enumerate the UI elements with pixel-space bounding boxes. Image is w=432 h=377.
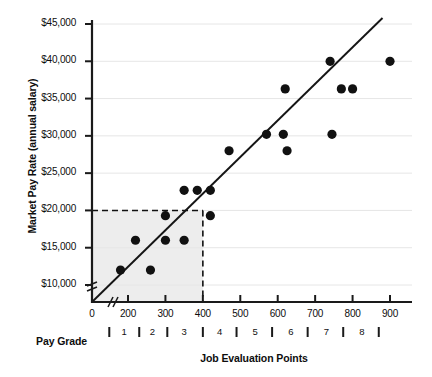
pay-grade-label: 7 [316, 326, 336, 337]
y-axis-tick-label: $15,000 [14, 241, 76, 252]
pay-grade-label: 5 [245, 326, 265, 337]
pay-policy-shaded-region [92, 210, 203, 302]
data-point [326, 57, 335, 66]
data-point [262, 130, 271, 139]
data-point [282, 146, 291, 155]
x-axis-tick-label: 900 [370, 308, 410, 319]
pay-grade-axis-title: Pay Grade [36, 335, 87, 347]
x-axis-tick-label: 700 [295, 308, 335, 319]
x-axis-tick-label: 500 [220, 308, 260, 319]
x-axis-title: Job Evaluation Points [144, 352, 364, 364]
x-axis-tick-label: 300 [145, 308, 185, 319]
data-point [161, 211, 170, 220]
data-point [279, 130, 288, 139]
y-axis-tick-label: $45,000 [14, 17, 76, 28]
y-axis-tick-label: $10,000 [14, 278, 76, 289]
data-point [385, 57, 394, 66]
y-axis-tick-label: $25,000 [14, 166, 76, 177]
pay-grade-label: 3 [174, 326, 194, 337]
x-axis-tick-label: 400 [183, 308, 223, 319]
x-axis-tick-label: 800 [333, 308, 373, 319]
data-point [337, 84, 346, 93]
x-axis-tick-label: 0 [72, 308, 112, 319]
data-point [116, 265, 125, 274]
y-axis-tick-label: $40,000 [14, 54, 76, 65]
pay-grade-label: 6 [281, 326, 301, 337]
y-axis-tick-label: $35,000 [14, 92, 76, 103]
chart-figure: Market Pay Rate (annual salary) $10,000$… [0, 0, 432, 377]
x-axis-tick-label: 200 [108, 308, 148, 319]
pay-grade-label: 8 [352, 326, 372, 337]
data-point [193, 186, 202, 195]
data-point [206, 211, 215, 220]
data-point [224, 146, 233, 155]
y-axis-tick-label: $20,000 [14, 203, 76, 214]
scatter-plot-area: Market Pay Rate (annual salary) $10,000$… [0, 0, 432, 377]
data-point [131, 236, 140, 245]
data-point [327, 130, 336, 139]
data-point [348, 84, 357, 93]
y-axis-title: Market Pay Rate (annual salary) [26, 46, 38, 266]
data-point [281, 84, 290, 93]
pay-grade-label: 1 [114, 326, 134, 337]
data-point [146, 265, 155, 274]
market-pay-trend-line [92, 18, 383, 302]
data-point [180, 186, 189, 195]
pay-grade-label: 2 [142, 326, 162, 337]
pay-grade-label: 4 [210, 326, 230, 337]
data-point [180, 236, 189, 245]
data-point [206, 186, 215, 195]
data-point [161, 236, 170, 245]
y-axis-tick-label: $30,000 [14, 129, 76, 140]
x-axis-tick-label: 600 [258, 308, 298, 319]
